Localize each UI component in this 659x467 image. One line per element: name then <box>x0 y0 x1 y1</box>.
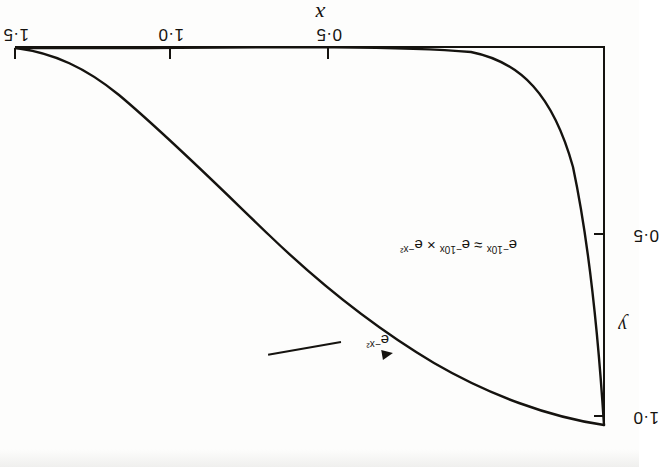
callout-exp: −x² <box>366 339 380 350</box>
equation-approx-symbol: ≈ <box>470 237 487 254</box>
equation-term-2-base: e <box>462 237 470 254</box>
approximation-equation-annotation: e−10x ≈ e−10x × e−x² <box>400 237 517 255</box>
equation-term-3-exp: −x² <box>400 244 414 255</box>
equation-term-1-exp: −10x <box>487 244 509 255</box>
callout-base: e <box>381 332 389 349</box>
curve-callout-annotation: e−x² <box>366 332 389 350</box>
equation-term-1-base: e <box>509 237 517 254</box>
callout-arrow-head-icon <box>381 348 394 360</box>
equation-term-3-base: e <box>414 237 422 254</box>
equation-times-symbol: × <box>423 237 440 254</box>
equation-term-2-exp: −10x <box>440 244 462 255</box>
